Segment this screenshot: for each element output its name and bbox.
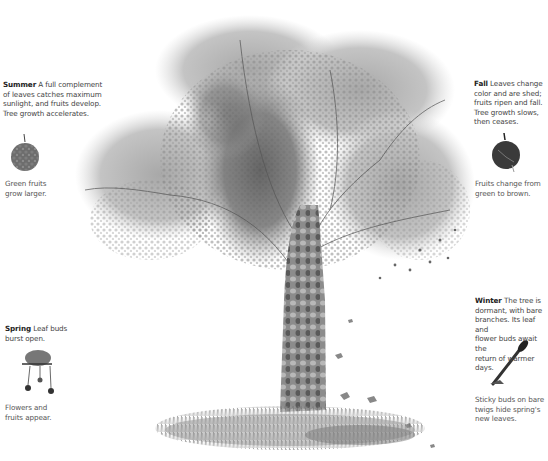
- tree-illustration: [0, 0, 548, 461]
- winter-bud-note: Sticky buds on bare twigs hide spring's …: [475, 395, 544, 424]
- fall-caption: Fall Leaves change color and are shed; f…: [474, 79, 548, 127]
- brown-fruit-icon: [492, 133, 520, 172]
- flower-cluster-icon: [22, 350, 54, 394]
- grass-ground: [155, 406, 425, 450]
- fall-heading: Fall: [474, 79, 488, 88]
- tree-canopy: [75, 15, 475, 300]
- fall-fruit-note: Fruits change from green to brown.: [475, 179, 541, 198]
- summer-caption: Summer A full complement of leaves catch…: [3, 80, 143, 118]
- summer-fruit-note: Green fruits grow larger.: [5, 179, 47, 198]
- spring-heading: Spring: [5, 324, 31, 333]
- spring-caption: Spring Leaf buds burst open.: [5, 324, 85, 343]
- spring-flower-note: Flowers and fruits appear.: [5, 403, 51, 422]
- winter-caption: Winter The tree is dormant, with bare br…: [475, 296, 548, 373]
- summer-heading: Summer: [3, 80, 36, 89]
- winter-heading: Winter: [475, 296, 502, 305]
- green-fruit-icon: [11, 134, 39, 171]
